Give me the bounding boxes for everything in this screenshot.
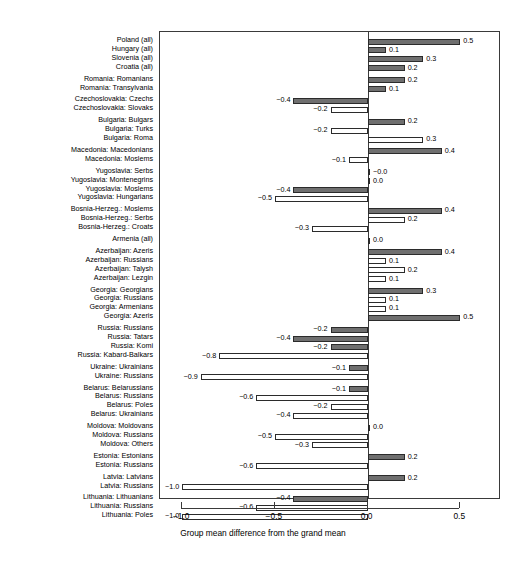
bar[interactable]: [368, 119, 405, 125]
bar[interactable]: [368, 217, 405, 223]
bar-value-label: −0.1: [332, 363, 346, 372]
bar[interactable]: [368, 454, 405, 460]
bar[interactable]: [293, 336, 367, 342]
category-label: Slovenia (all): [111, 54, 153, 62]
bar[interactable]: [368, 297, 387, 303]
bar[interactable]: [368, 425, 371, 431]
bar[interactable]: [368, 65, 405, 71]
bar-value-label: 0.4: [445, 146, 455, 155]
category-label: Russia: Kabard-Balkars: [77, 351, 153, 359]
bar[interactable]: [368, 77, 405, 83]
bar[interactable]: [312, 442, 368, 448]
bar[interactable]: [331, 344, 368, 350]
bar[interactable]: [368, 47, 387, 53]
bar[interactable]: [368, 267, 405, 273]
bar[interactable]: [201, 374, 368, 380]
bar[interactable]: [293, 413, 367, 419]
bar[interactable]: [368, 137, 424, 143]
bar-row: 0.1: [160, 305, 499, 313]
bar[interactable]: [368, 169, 371, 175]
bar-value-label: −0.2: [313, 324, 327, 333]
x-axis-tick: [274, 502, 275, 508]
bar-value-label: 0.0: [373, 422, 383, 431]
category-label: Czechoslovakia: Czechs: [75, 95, 153, 103]
bar[interactable]: [368, 276, 387, 282]
bar-row: −0.1: [160, 365, 499, 373]
category-label: Moldova: Moldovans: [87, 422, 153, 430]
bar-value-label: −0.1: [332, 155, 346, 164]
bar-row: −0.4: [160, 187, 499, 195]
category-label: Yugoslavia: Hungarians: [77, 193, 153, 201]
bar[interactable]: [368, 86, 387, 92]
bar[interactable]: [368, 315, 461, 321]
bar[interactable]: [256, 463, 367, 469]
bar-row: 0.1: [160, 86, 499, 94]
category-label: Lithuania: Lithuanians: [83, 493, 153, 501]
bar[interactable]: [331, 404, 368, 410]
bar[interactable]: [349, 365, 368, 371]
x-axis-tick-label: 0.0: [361, 511, 373, 521]
category-label: Bosnia-Herzeg.: Moslems: [71, 205, 153, 213]
bar-row: −0.5: [160, 433, 499, 441]
bar-row: −0.4: [160, 412, 499, 420]
category-label: Macedonia: Macedonians: [71, 146, 153, 154]
bar-row: 0.2: [160, 65, 499, 73]
x-axis-line: [181, 508, 459, 509]
bar-row: −0.0: [160, 169, 499, 177]
category-label: Moldova: Russians: [92, 431, 153, 439]
bar[interactable]: [368, 208, 442, 214]
bar-row: 0.4: [160, 148, 499, 156]
bar[interactable]: [275, 434, 368, 440]
bar[interactable]: [368, 249, 442, 255]
bar[interactable]: [331, 107, 368, 113]
bar-value-label: 0.5: [463, 312, 473, 321]
bar[interactable]: [331, 327, 368, 333]
bar[interactable]: [293, 187, 367, 193]
category-label: Bosnia-Herzeg.: Croats: [78, 223, 153, 231]
bar[interactable]: [275, 196, 368, 202]
bar[interactable]: [182, 484, 367, 490]
category-label: Georgia: Azeris: [104, 312, 153, 320]
bar[interactable]: [368, 288, 424, 294]
category-label: Macedonia: Moslems: [85, 155, 153, 163]
bar[interactable]: [368, 475, 405, 481]
category-label: Bulgaria: Turks: [105, 125, 153, 133]
bar[interactable]: [219, 353, 367, 359]
category-label: Czechoslovakia: Slovaks: [74, 104, 154, 112]
category-label: Moldova: Others: [100, 440, 153, 448]
bar-value-label: 0.5: [463, 36, 473, 45]
bar[interactable]: [331, 128, 368, 134]
bar[interactable]: [368, 258, 387, 264]
bar-value-label: 0.2: [408, 452, 418, 461]
bar[interactable]: [349, 157, 368, 163]
bar[interactable]: [293, 98, 367, 104]
bar[interactable]: [349, 386, 368, 392]
bar-value-label: −0.1: [332, 384, 346, 393]
bar-row: −1.0: [160, 484, 499, 492]
bar[interactable]: [368, 39, 461, 45]
plot-area: 0.50.10.30.20.20.1−0.4−0.20.2−0.20.30.4−…: [159, 31, 500, 499]
bar-row: 0.1: [160, 276, 499, 284]
category-label: Belarus: Belarussians: [83, 384, 153, 392]
bar-value-label: −0.0: [373, 167, 387, 176]
bar[interactable]: [312, 226, 368, 232]
category-label: Russia: Tatars: [108, 333, 153, 341]
bar-value-label: 0.2: [408, 63, 418, 72]
category-label: Poland (all): [117, 36, 153, 44]
category-label: Ukraine: Russians: [95, 372, 153, 380]
bar-value-label: 0.1: [389, 84, 399, 93]
bar[interactable]: [368, 56, 424, 62]
bar-value-label: −0.3: [295, 440, 309, 449]
bar-row: 0.2: [160, 216, 499, 224]
bar[interactable]: [256, 395, 367, 401]
bar[interactable]: [368, 238, 371, 244]
bar-value-label: 0.2: [408, 473, 418, 482]
bar-value-label: 0.4: [445, 205, 455, 214]
bar-row: 0.1: [160, 47, 499, 55]
bar[interactable]: [368, 306, 387, 312]
bar-value-label: 0.0: [373, 176, 383, 185]
bar-row: 0.3: [160, 56, 499, 64]
category-label: Azerbaijan: Talysh: [95, 265, 153, 273]
bar[interactable]: [368, 178, 371, 184]
bar[interactable]: [368, 148, 442, 154]
